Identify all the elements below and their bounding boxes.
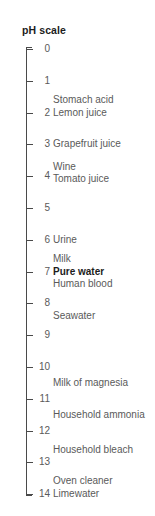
axis-tick-mark <box>26 113 33 114</box>
axis-tick-mark <box>26 431 33 432</box>
page-title: pH scale <box>22 24 66 36</box>
axis-tick-mark <box>26 303 33 304</box>
axis-tick-mark <box>26 81 33 82</box>
axis-tick-mark <box>26 208 33 209</box>
axis-tick-label: 8 <box>36 298 50 308</box>
axis-tick-label: 5 <box>36 203 50 213</box>
axis-tick-mark <box>26 367 33 368</box>
substance-label: Tomato juice <box>53 174 109 184</box>
substance-label: Human blood <box>53 279 112 289</box>
axis-cap-bottom <box>26 495 32 496</box>
axis-tick-mark <box>26 176 33 177</box>
axis-tick-mark <box>26 240 33 241</box>
axis-tick-label: 11 <box>36 394 50 404</box>
substance-label: Grapefruit juice <box>53 139 121 149</box>
axis-tick-label: 14 <box>36 489 50 499</box>
substance-label: Milk of magnesia <box>53 378 128 388</box>
axis-tick-label: 9 <box>36 330 50 340</box>
substance-label: Limewater <box>53 489 99 499</box>
substance-label: Stomach acid <box>53 95 114 105</box>
ph-scale-figure: pH scale 01234567891011121314 Stomach ac… <box>0 0 155 516</box>
substance-label: Milk <box>53 254 71 264</box>
substance-label: Lemon juice <box>53 108 107 118</box>
axis-tick-label: 4 <box>36 171 50 181</box>
substance-label: Wine <box>53 162 76 172</box>
axis-tick-mark <box>26 272 33 273</box>
axis-tick-label: 3 <box>36 139 50 149</box>
axis-tick-mark <box>26 335 33 336</box>
axis-tick-label: 13 <box>36 457 50 467</box>
axis-tick-label: 2 <box>36 108 50 118</box>
axis-cap-top <box>26 47 32 48</box>
substance-label: Oven cleaner <box>53 476 112 486</box>
axis-tick-mark <box>26 49 33 50</box>
axis-tick-mark <box>26 462 33 463</box>
axis-tick-label: 10 <box>36 362 50 372</box>
axis-tick-label: 7 <box>36 267 50 277</box>
axis-tick-mark <box>26 144 33 145</box>
axis-tick-label: 6 <box>36 235 50 245</box>
axis-tick-mark <box>26 399 33 400</box>
substance-label: Seawater <box>53 311 95 321</box>
axis-tick-label: 1 <box>36 76 50 86</box>
axis-tick-label: 12 <box>36 426 50 436</box>
substance-label: Urine <box>53 235 77 245</box>
axis-tick-label: 0 <box>36 44 50 54</box>
substance-label: Pure water <box>53 267 104 277</box>
substance-label: Household ammonia <box>53 410 145 420</box>
substance-label: Household bleach <box>53 445 133 455</box>
axis-tick-mark <box>26 494 33 495</box>
